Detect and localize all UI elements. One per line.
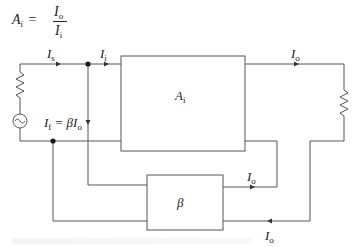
output-current-sub: o bbox=[295, 53, 300, 63]
junction-dot-top bbox=[85, 61, 90, 66]
feedback-current-rhs-sub: o bbox=[77, 122, 82, 132]
feedback-lower-sub: o bbox=[269, 235, 274, 245]
output-bottom-wire-right bbox=[223, 141, 344, 221]
output-top-wire bbox=[245, 64, 344, 90]
feedback-upper-sub: o bbox=[251, 176, 256, 186]
source-current-label: Is bbox=[47, 47, 55, 63]
source-current-sub: s bbox=[51, 53, 55, 63]
amplifier-sub: i bbox=[183, 95, 186, 105]
output-current-label-top: Io bbox=[291, 47, 300, 63]
amplifier-symbol: A bbox=[175, 88, 183, 103]
feedback-block bbox=[147, 175, 223, 230]
arrow-beta-lower-icon bbox=[267, 219, 272, 224]
junction-dot-bottom bbox=[50, 138, 55, 143]
amplifier-block-label: Ai bbox=[175, 89, 185, 105]
figure-caption-faint bbox=[12, 238, 252, 244]
load-resistor-icon bbox=[340, 90, 348, 141]
arrow-feedback-current-icon bbox=[86, 120, 91, 125]
feedback-current-label: If = βIo bbox=[44, 116, 82, 132]
feedback-return-wire bbox=[53, 141, 147, 221]
feedback-output-lower-label: Io bbox=[265, 229, 274, 245]
input-current-sub: i bbox=[104, 53, 107, 63]
feedback-current-sub: f bbox=[48, 122, 51, 132]
source-resistor-icon bbox=[16, 72, 24, 114]
feedback-current-rhs: = βI bbox=[55, 115, 78, 130]
input-current-label: Ii bbox=[100, 47, 107, 63]
arrow-source-current-icon bbox=[56, 62, 61, 67]
feedback-amplifier-diagram: Ai = Io Ii bbox=[0, 0, 360, 247]
feedback-block-label: β bbox=[177, 196, 183, 209]
feedback-output-upper-label: Io bbox=[247, 170, 256, 186]
feedback-symbol: β bbox=[177, 195, 183, 210]
